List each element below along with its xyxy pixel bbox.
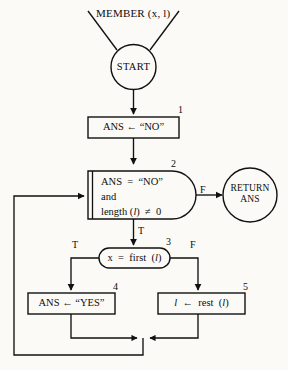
node2-false-branch-label: F [200,184,206,195]
node5-assign-rest[interactable] [158,293,245,314]
node2-condition[interactable] [88,171,196,219]
node1-assign-ans-no[interactable] [88,117,179,138]
node3-true-branch-label: T [72,239,78,250]
node4-assign-ans-yes[interactable] [28,293,115,314]
edge-node4-to-merge [71,314,137,338]
edge-node3-false-to-node5 [170,258,198,290]
flowchart-page: MEMBER (x, l) START ANS ← “NO” ANS = “NO… [0,0,288,370]
node3-step-number: 3 [166,236,171,247]
node3-false-branch-label: F [190,239,196,250]
node2-step-number: 2 [171,158,176,169]
node2-true-branch-label: T [138,225,144,236]
caller-line-right [150,11,179,50]
edge-node3-true-to-node4 [71,258,99,290]
node1-step-number: 1 [178,104,183,115]
edge-node5-to-merge [150,314,198,338]
return-terminal[interactable] [223,168,277,222]
start-terminal[interactable] [111,44,157,90]
node3-condition[interactable] [99,248,170,268]
caller-line-left [88,11,117,50]
node4-step-number: 4 [113,281,118,292]
edge-loop-back-to-node2 [14,196,143,355]
node5-step-number: 5 [243,281,248,292]
